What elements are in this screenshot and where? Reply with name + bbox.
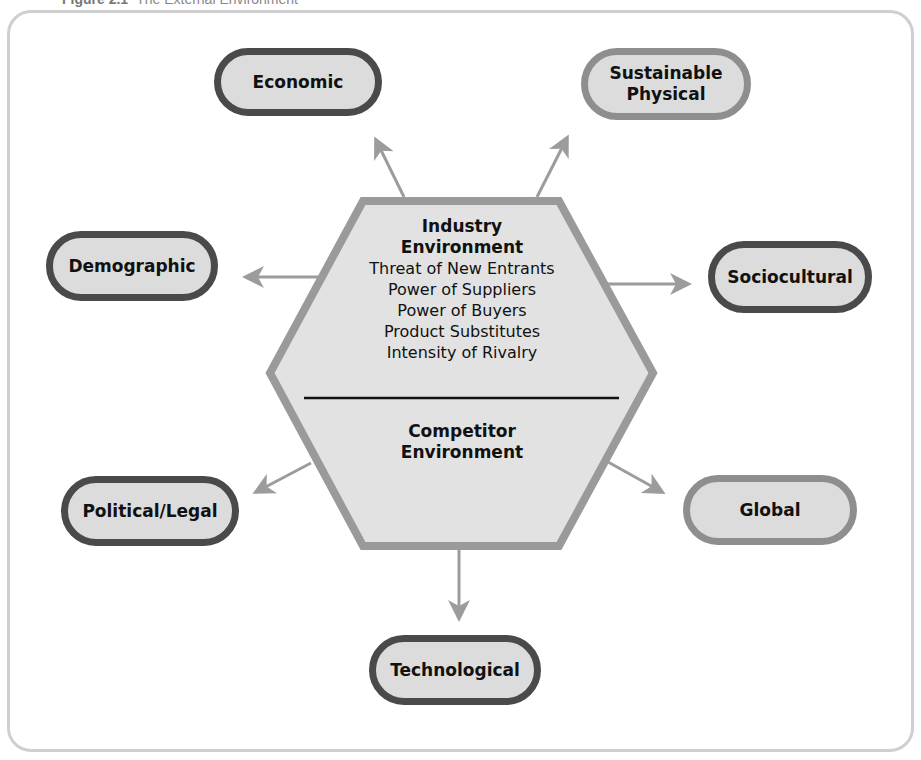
industry-title-line1: Industry bbox=[268, 216, 656, 237]
segment-label: Technological bbox=[390, 660, 520, 681]
industry-title-line2: Environment bbox=[268, 237, 656, 258]
segment-label: Demographic bbox=[68, 256, 195, 277]
segment-global: Global bbox=[683, 475, 857, 545]
segment-political-legal: Political/Legal bbox=[61, 476, 239, 546]
segment-label: Sustainable Physical bbox=[610, 63, 723, 105]
industry-item: Power of Buyers bbox=[268, 300, 656, 321]
segment-label: Political/Legal bbox=[82, 501, 217, 522]
segment-demographic: Demographic bbox=[46, 231, 218, 301]
industry-item: Power of Suppliers bbox=[268, 279, 656, 300]
competitor-title-line2: Environment bbox=[268, 442, 656, 463]
segment-label: Global bbox=[740, 500, 801, 521]
competitor-environment-block: Competitor Environment bbox=[268, 421, 656, 463]
segment-sustainable-physical: Sustainable Physical bbox=[581, 48, 751, 120]
segment-sociocultural: Sociocultural bbox=[708, 241, 872, 313]
industry-item: Intensity of Rivalry bbox=[268, 342, 656, 363]
segment-technological: Technological bbox=[369, 635, 541, 705]
segment-label-line1: Sustainable bbox=[610, 63, 723, 83]
segment-label: Economic bbox=[253, 72, 344, 93]
segment-economic: Economic bbox=[214, 48, 382, 116]
industry-item: Threat of New Entrants bbox=[268, 258, 656, 279]
competitor-title-line1: Competitor bbox=[268, 421, 656, 442]
arrow-global bbox=[608, 462, 662, 492]
segment-label: Sociocultural bbox=[727, 267, 852, 288]
arrow-economic bbox=[376, 140, 404, 197]
arrow-political bbox=[256, 463, 311, 492]
industry-item: Product Substitutes bbox=[268, 321, 656, 342]
industry-environment-block: Industry Environment Threat of New Entra… bbox=[268, 216, 656, 363]
segment-label-line2: Physical bbox=[627, 84, 706, 104]
arrow-sustainable bbox=[537, 138, 567, 197]
